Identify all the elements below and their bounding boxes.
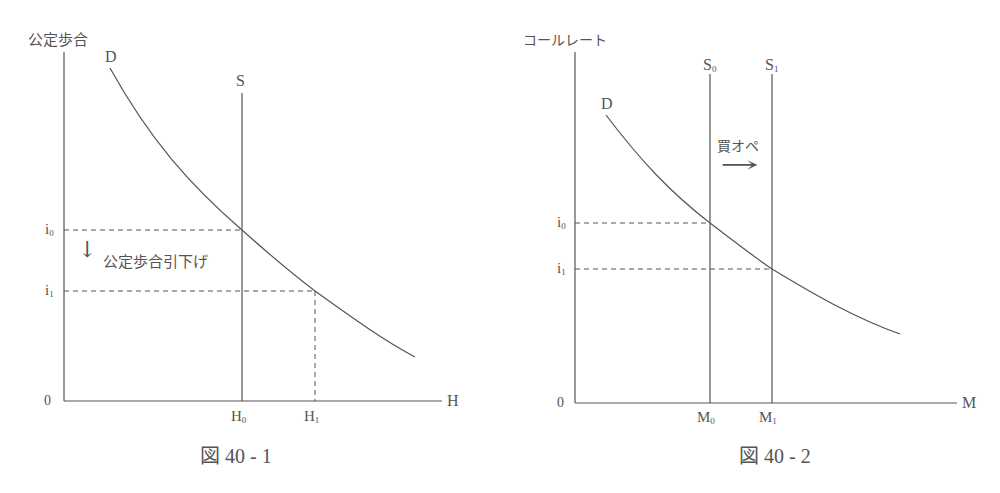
fig2-i0-label: i0 (557, 215, 566, 231)
fig2-m1-label: M1 (759, 410, 777, 426)
right-arrow-icon: → (720, 154, 759, 176)
fig1-origin-label: 0 (44, 394, 51, 408)
fig1-h1-label: H1 (304, 409, 319, 425)
fig1-caption: 図 40 - 1 (200, 446, 272, 466)
fig1-supply-label: S (236, 73, 245, 89)
fig1-i1-label: i1 (45, 283, 54, 299)
fig2-demand-label: D (601, 96, 613, 112)
fig2-origin-label: 0 (557, 396, 564, 410)
figure-1-graph (64, 52, 442, 401)
fig1-demand-curve (110, 68, 415, 357)
diagrams-canvas (0, 0, 1000, 493)
fig1-h0-label: H0 (231, 409, 246, 425)
fig1-annotation: 公定歩合引下げ (103, 255, 208, 270)
fig1-demand-label: D (105, 49, 117, 65)
fig2-i1-label: i1 (557, 261, 566, 277)
fig1-x-axis-label: H (447, 393, 459, 409)
fig2-y-axis-label: コールレート (523, 33, 607, 47)
figure-2-graph (575, 52, 957, 403)
fig2-annotation: 買オペ (717, 139, 759, 153)
fig2-caption: 図 40 - 2 (739, 446, 811, 466)
fig2-supply-s1-label: S1 (765, 57, 778, 74)
fig2-m0-label: M0 (697, 410, 715, 426)
fig1-i0-label: i0 (45, 222, 54, 238)
fig2-x-axis-label: M (962, 395, 976, 411)
fig2-supply-s0-label: S0 (703, 57, 716, 74)
down-arrow-icon: ↓ (78, 239, 96, 261)
fig1-y-axis-label: 公定歩合 (28, 33, 88, 48)
